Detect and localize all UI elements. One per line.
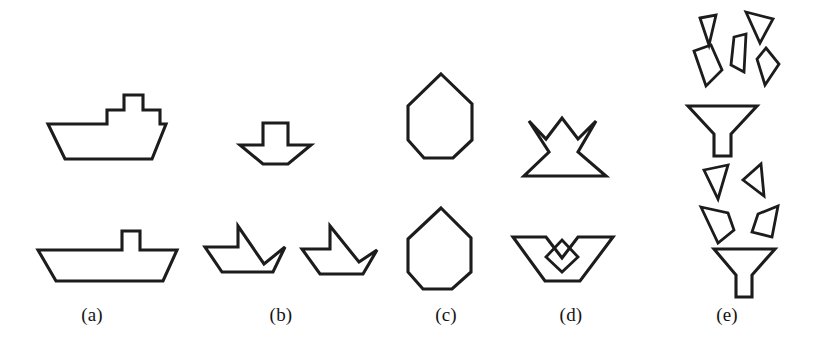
e-upper-fragment-2-shape xyxy=(746,12,773,43)
e-lower-fragment-4-shape xyxy=(752,206,778,237)
e-lower-fragment-1-shape xyxy=(704,165,728,199)
d-upper-crown-shape xyxy=(524,118,606,176)
a-lower-boat-with-mast-shape xyxy=(38,231,177,281)
e-lower-funnel-shape xyxy=(714,249,775,297)
figure-container: (a) (b) (c) (d) (e) xyxy=(0,0,814,360)
a-upper-stepped-boat-shape xyxy=(48,95,166,159)
caption-d: (d) xyxy=(560,304,583,326)
shape-group-a xyxy=(38,95,177,281)
e-upper-fragment-4-shape xyxy=(731,34,746,72)
shape-group-e xyxy=(688,12,779,297)
caption-e: (e) xyxy=(716,304,738,326)
caption-row: (a) (b) (c) (d) (e) xyxy=(0,304,814,348)
b-lower-sailboat-left-shape xyxy=(205,226,285,272)
caption-a: (a) xyxy=(81,304,103,326)
d-lower-bowl-shape xyxy=(513,237,613,281)
e-upper-funnel-shape xyxy=(688,106,757,156)
c-lower-heptagon-shape xyxy=(408,208,471,289)
e-lower-fragment-2-shape xyxy=(743,164,764,196)
e-upper-fragment-5-shape xyxy=(757,48,779,85)
b-lower-sailboat-right-shape xyxy=(302,226,377,274)
caption-b: (b) xyxy=(270,304,293,326)
e-upper-fragment-1-shape xyxy=(700,15,716,45)
b-upper-small-arrow-boat-shape xyxy=(240,123,311,164)
c-upper-heptagon-shape xyxy=(408,74,472,158)
e-lower-fragment-3-shape xyxy=(701,207,734,243)
shape-group-c xyxy=(408,74,472,289)
shape-group-d xyxy=(513,118,613,281)
shape-group-b xyxy=(205,123,377,274)
e-upper-fragment-3-shape xyxy=(694,45,722,86)
caption-c: (c) xyxy=(435,304,457,326)
